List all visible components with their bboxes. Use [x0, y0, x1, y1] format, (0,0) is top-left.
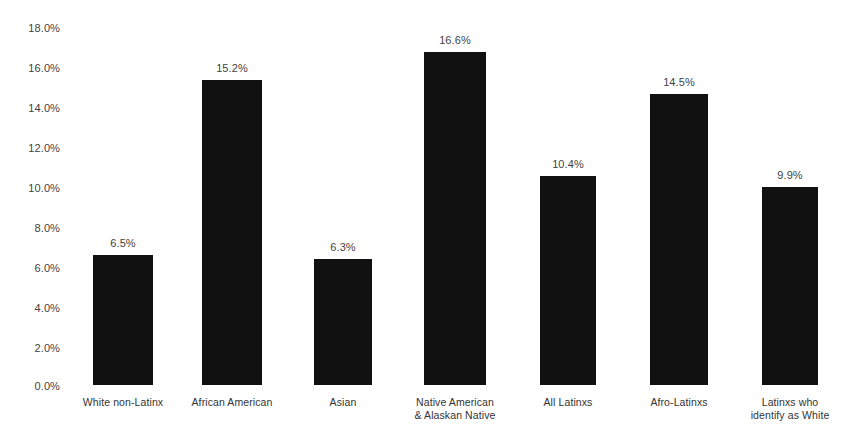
- x-axis-category-line: All Latinxs: [544, 396, 593, 409]
- bar-value-label: 9.9%: [777, 169, 802, 181]
- x-axis-category-label: Asian: [330, 396, 357, 409]
- x-axis-category-line: Asian: [330, 396, 357, 409]
- bar-group: 16.6%Native American& Alaskan Native: [424, 52, 486, 385]
- bar[interactable]: [314, 259, 372, 385]
- bar-group: 6.5%White non-Latinx: [93, 255, 153, 385]
- x-axis-category-label: White non-Latinx: [83, 396, 163, 409]
- bar-value-label: 14.5%: [663, 76, 695, 88]
- x-axis-category-label: All Latinxs: [544, 396, 593, 409]
- bar[interactable]: [540, 176, 596, 385]
- bar-group: 14.5%Afro-Latinxs: [650, 94, 708, 385]
- bar[interactable]: [93, 255, 153, 385]
- plot-area: 6.5%White non-Latinx15.2%African America…: [0, 0, 859, 447]
- bar-value-label: 6.3%: [330, 241, 355, 253]
- bar-group: 9.9%Latinxs whoidentify as White: [762, 187, 818, 385]
- x-axis-category-label: African American: [192, 396, 273, 409]
- bar-value-label: 16.6%: [439, 34, 471, 46]
- x-axis-category-label: Latinxs whoidentify as White: [751, 396, 830, 422]
- x-axis-category-label: Afro-Latinxs: [650, 396, 707, 409]
- bar-value-label: 10.4%: [552, 158, 584, 170]
- x-axis-category-line: White non-Latinx: [83, 396, 163, 409]
- bar[interactable]: [650, 94, 708, 385]
- bar[interactable]: [202, 80, 262, 385]
- bar-chart: 18.0% 16.0% 14.0% 12.0% 10.0% 8.0% 6.0% …: [0, 0, 859, 447]
- x-axis-category-line: Afro-Latinxs: [650, 396, 707, 409]
- x-axis-category-line: Latinxs who: [751, 396, 830, 409]
- x-axis-category-line: Native American: [415, 396, 496, 409]
- bar[interactable]: [762, 187, 818, 385]
- bar-group: 15.2%African American: [202, 80, 262, 385]
- bar-value-label: 6.5%: [110, 237, 135, 249]
- x-axis-category-line: African American: [192, 396, 273, 409]
- bar-group: 10.4%All Latinxs: [540, 176, 596, 385]
- bar[interactable]: [424, 52, 486, 385]
- x-axis-category-label: Native American& Alaskan Native: [415, 396, 496, 422]
- bar-group: 6.3%Asian: [314, 259, 372, 385]
- x-axis-category-line: & Alaskan Native: [415, 409, 496, 422]
- bar-value-label: 15.2%: [216, 62, 248, 74]
- x-axis-category-line: identify as White: [751, 409, 830, 422]
